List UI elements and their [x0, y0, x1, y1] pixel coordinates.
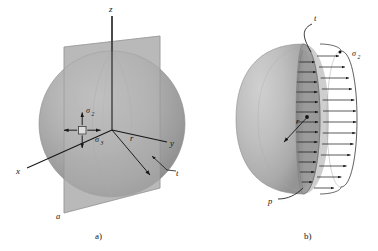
- sigma-3-subscript-a: 3: [99, 140, 103, 146]
- caption-b: b): [304, 231, 312, 241]
- figure-root: z y x σ 2 σ 3 r t a a): [0, 0, 378, 251]
- sigma-2-anchor-dot: [339, 51, 342, 54]
- axis-z-label: z: [108, 4, 113, 14]
- axis-x-label: x: [15, 166, 20, 176]
- sigma-2-subscript-a: 2: [91, 111, 94, 117]
- stress-element-square: [79, 127, 87, 135]
- caption-a: a): [95, 231, 102, 241]
- pressure-vessel-figure: z y x σ 2 σ 3 r t a a): [0, 0, 378, 251]
- axis-y-label: y: [169, 138, 174, 148]
- plane-corner-label: a: [56, 211, 60, 221]
- sigma-2-subscript-b: 2: [357, 54, 360, 60]
- pressure-label-b: p: [267, 196, 272, 206]
